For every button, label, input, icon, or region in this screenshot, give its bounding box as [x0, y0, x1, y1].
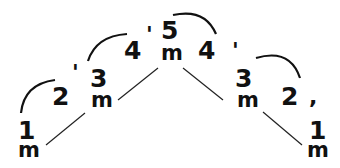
node-unit-1-right: m [307, 140, 329, 161]
line-1-3-left [46, 113, 85, 145]
line-5-3-right [183, 68, 223, 100]
node-unit-3-left: m [91, 90, 113, 111]
node-mark-2-right: , [309, 86, 317, 108]
arc-1-2-left [21, 80, 55, 113]
node-mark-4-left: ' [146, 24, 153, 46]
node-mark-2-left: ' [72, 62, 79, 84]
arc-3-4-left [88, 34, 127, 61]
node-number-2-left: 2 [52, 84, 69, 109]
node-unit-3-right: m [237, 90, 259, 111]
line-3-1-right [263, 112, 302, 145]
node-mark-4-right: ' [232, 40, 239, 62]
arc-3-2-right [256, 56, 300, 79]
diagram-canvas: 1 m 2 ' 3 m 4 ' 5 m 4 ' 3 m 2 , 1 m [0, 0, 340, 168]
node-number-4-left: 4 [124, 38, 141, 63]
node-number-4-right: 4 [198, 38, 215, 63]
node-number-2-right: 2 [281, 84, 298, 109]
line-3-5-left [118, 68, 158, 100]
node-number-5-apex: 5 [161, 18, 178, 43]
node-unit-1-left: m [18, 140, 40, 161]
node-unit-5-apex: m [161, 43, 183, 64]
arc-5-4-right [173, 14, 216, 34]
